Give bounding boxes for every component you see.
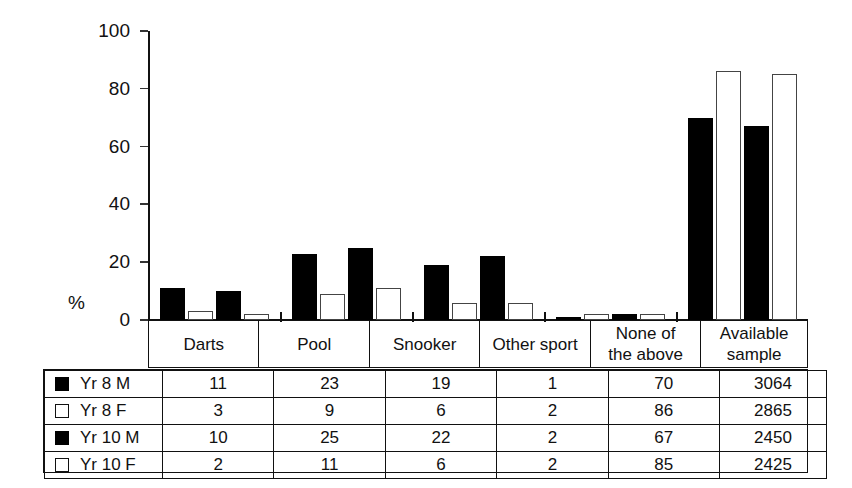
table-cell: 6	[385, 452, 496, 479]
bar-chart-plot: 020406080100 %	[0, 0, 852, 330]
bar-darts-yr-10-m	[216, 291, 241, 320]
category-header-row: DartsPoolSnookerOther sportNone ofthe ab…	[148, 321, 808, 368]
category-header-line: None of	[616, 323, 676, 344]
category-header-pool: Pool	[259, 321, 369, 367]
bar-none-of-the-above-yr-10-f	[772, 74, 797, 320]
table-cell: 11	[163, 371, 274, 398]
table-cell: 85	[608, 452, 719, 479]
legend-label: Yr 10 F	[80, 455, 136, 474]
bar-none-of-the-above-yr-8-f	[716, 71, 741, 320]
category-header-line: Darts	[183, 334, 224, 355]
table-cell: 25	[274, 425, 385, 452]
legend-cell-yr-10-f: Yr 10 F	[45, 452, 163, 479]
data-table: Yr 8 M1123191703064Yr 8 F3962862865Yr 10…	[43, 369, 808, 473]
table-cell: 22	[385, 425, 496, 452]
category-header-darts: Darts	[149, 321, 259, 367]
legend-cell-yr-8-f: Yr 8 F	[45, 398, 163, 425]
category-header-line: Available	[720, 323, 789, 344]
table-cell: 2	[163, 452, 274, 479]
bar-snooker-yr-10-m	[480, 256, 505, 320]
bar-darts-yr-10-f	[244, 314, 269, 320]
table-cell: 11	[274, 452, 385, 479]
bar-other-sport-yr-8-f	[584, 314, 609, 320]
table-cell: 2450	[719, 425, 826, 452]
empty-square-icon	[55, 458, 69, 472]
bar-other-sport-yr-10-m	[612, 314, 637, 320]
chart-page: 020406080100 % DartsPoolSnookerOther spo…	[0, 0, 852, 488]
table-cell: 2	[497, 452, 608, 479]
bars-layer	[0, 0, 852, 330]
bar-other-sport-yr-8-m	[556, 317, 581, 320]
table-cell: 9	[274, 398, 385, 425]
table-cell: 10	[163, 425, 274, 452]
table-cell: 2865	[719, 398, 826, 425]
legend-label: Yr 8 M	[80, 374, 130, 393]
table-cell: 86	[608, 398, 719, 425]
category-header-available-sample: Availablesample	[701, 321, 807, 367]
table-cell: 70	[608, 371, 719, 398]
table-cell: 67	[608, 425, 719, 452]
bar-none-of-the-above-yr-10-m	[744, 126, 769, 320]
table-cell: 2425	[719, 452, 826, 479]
bar-pool-yr-10-m	[348, 248, 373, 320]
empty-square-icon	[55, 404, 69, 418]
data-table-grid: Yr 8 M1123191703064Yr 8 F3962862865Yr 10…	[44, 370, 827, 479]
category-header-line: Snooker	[393, 334, 456, 355]
bar-other-sport-yr-10-f	[640, 314, 665, 320]
legend-cell-yr-8-m: Yr 8 M	[45, 371, 163, 398]
legend-label: Yr 10 M	[80, 428, 140, 447]
bar-pool-yr-8-m	[292, 254, 317, 320]
table-cell: 2	[497, 398, 608, 425]
category-header-other-sport: Other sport	[480, 321, 590, 367]
filled-square-icon	[55, 377, 69, 391]
bar-pool-yr-8-f	[320, 294, 345, 320]
table-cell: 6	[385, 398, 496, 425]
bar-darts-yr-8-m	[160, 288, 185, 320]
table-cell: 2	[497, 425, 608, 452]
table-cell: 3064	[719, 371, 826, 398]
table-row: Yr 10 M1025222672450	[45, 425, 827, 452]
category-header-none-of-the-above: None ofthe above	[591, 321, 701, 367]
bar-none-of-the-above-yr-8-m	[688, 118, 713, 320]
table-row: Yr 10 F21162852425	[45, 452, 827, 479]
category-header-line: Other sport	[493, 334, 578, 355]
bar-snooker-yr-10-f	[508, 303, 533, 320]
bar-snooker-yr-8-f	[452, 303, 477, 320]
table-row: Yr 8 F3962862865	[45, 398, 827, 425]
category-header-line: the above	[608, 344, 683, 365]
table-cell: 23	[274, 371, 385, 398]
bar-darts-yr-8-f	[188, 311, 213, 320]
filled-square-icon	[55, 431, 69, 445]
table-row: Yr 8 M1123191703064	[45, 371, 827, 398]
table-cell: 19	[385, 371, 496, 398]
legend-label: Yr 8 F	[80, 401, 126, 420]
category-header-snooker: Snooker	[370, 321, 480, 367]
table-cell: 3	[163, 398, 274, 425]
category-header-line: Pool	[297, 334, 331, 355]
legend-cell-yr-10-m: Yr 10 M	[45, 425, 163, 452]
bar-pool-yr-10-f	[376, 288, 401, 320]
category-header-line: sample	[727, 344, 782, 365]
bar-snooker-yr-8-m	[424, 265, 449, 320]
table-cell: 1	[497, 371, 608, 398]
